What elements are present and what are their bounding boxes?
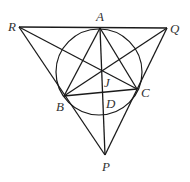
segment-QB [64,28,167,96]
segment-RP [19,27,105,155]
label-R: R [7,19,16,34]
label-A: A [95,9,104,24]
label-P: P [101,159,110,174]
label-D: D [105,96,116,111]
geometry-figure: A Q R B C J D P [0,0,190,182]
segment-RQ [19,27,167,28]
label-J: J [104,75,111,90]
segment-AB [64,28,100,96]
segment-BC [64,89,137,96]
label-Q: Q [170,21,180,36]
diagram-svg: A Q R B C J D P [0,0,190,182]
label-B: B [56,99,64,114]
segment-RC [19,27,137,89]
label-C: C [141,85,150,100]
